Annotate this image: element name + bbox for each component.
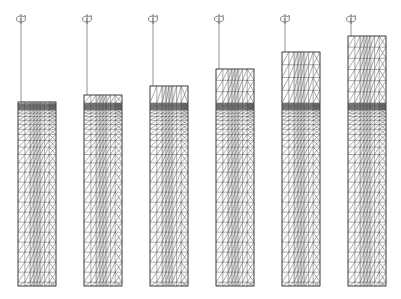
- column-mesh-6: [347, 14, 387, 286]
- rotation-arrow-icon: [83, 14, 93, 24]
- rotation-arrow-icon: [149, 14, 159, 24]
- column-mesh-5: [281, 14, 321, 286]
- rotation-arrow-icon: [17, 14, 27, 24]
- column-mesh-1: [17, 14, 57, 286]
- column-mesh-2: [83, 14, 123, 286]
- mesh-figure: [0, 0, 401, 299]
- rotation-arrow-icon: [347, 14, 357, 24]
- rotation-arrow-icon: [281, 14, 291, 24]
- rotation-arrow-icon: [215, 14, 225, 24]
- column-mesh-4: [215, 14, 255, 286]
- column-mesh-sequence: [0, 0, 401, 299]
- column-mesh-3: [149, 14, 189, 286]
